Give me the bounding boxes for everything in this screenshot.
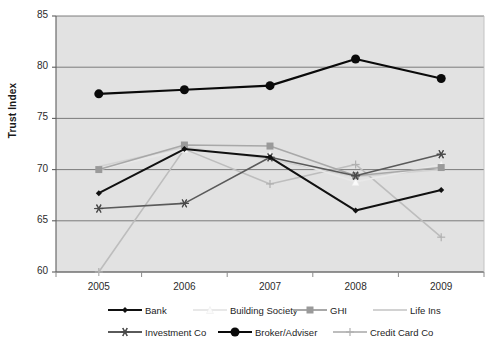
legend-marker-glyph <box>121 328 130 336</box>
legend-key-ghi <box>293 303 327 317</box>
legend-marker-diamond-icon <box>118 303 132 317</box>
data-point <box>266 81 275 90</box>
legend-marker-glyph <box>231 328 240 337</box>
legend-key-credit-card-co <box>333 325 367 339</box>
chart-legend: BankBuilding SocietyGHILife Ins Investme… <box>108 299 483 345</box>
data-point <box>94 89 103 98</box>
legend-item-building-society[interactable]: Building Society <box>193 299 298 321</box>
legend-marker-glyph <box>122 307 128 313</box>
legend-label: Credit Card Co <box>367 327 433 338</box>
legend-marker-glyph <box>307 307 314 314</box>
legend-label: Broker/Adviser <box>252 327 317 338</box>
trust-index-line-chart: Trust Index 606570758085 200520062007200… <box>0 0 491 351</box>
legend-marker-plus-icon <box>343 325 357 339</box>
legend-label: Bank <box>142 305 167 316</box>
legend-key-building-society <box>193 303 227 317</box>
legend-row-2: Investment CoBroker/AdviserCredit Card C… <box>108 321 483 343</box>
legend-marker-glyph <box>207 307 214 314</box>
legend-item-life-ins[interactable]: Life Ins <box>373 299 441 321</box>
data-point <box>95 166 102 173</box>
legend-item-credit-card-co[interactable]: Credit Card Co <box>333 321 433 343</box>
legend-label: Building Society <box>227 305 298 316</box>
legend-label: Investment Co <box>142 327 206 338</box>
legend-marker-square-icon <box>303 303 317 317</box>
legend-item-investment-co[interactable]: Investment Co <box>108 321 206 343</box>
legend-label: GHI <box>327 305 347 316</box>
legend-marker-triangle-icon <box>203 303 217 317</box>
legend-line <box>373 309 407 311</box>
legend-key-life-ins <box>373 303 407 317</box>
data-point <box>180 85 189 94</box>
data-point <box>437 74 446 83</box>
data-point <box>267 143 274 150</box>
legend-row-1: BankBuilding SocietyGHILife Ins <box>108 299 483 321</box>
legend-marker-glyph <box>346 328 354 336</box>
legend-label: Life Ins <box>407 305 441 316</box>
legend-item-bank[interactable]: Bank <box>108 299 167 321</box>
legend-key-broker-adviser <box>218 325 252 339</box>
legend-key-bank <box>108 303 142 317</box>
legend-marker-asterisk-icon <box>118 325 132 339</box>
legend-item-ghi[interactable]: GHI <box>293 299 347 321</box>
legend-marker-circle-icon <box>228 325 242 339</box>
data-point <box>438 164 445 171</box>
legend-item-broker-adviser[interactable]: Broker/Adviser <box>218 321 317 343</box>
legend-key-investment-co <box>108 325 142 339</box>
data-point <box>351 55 360 64</box>
